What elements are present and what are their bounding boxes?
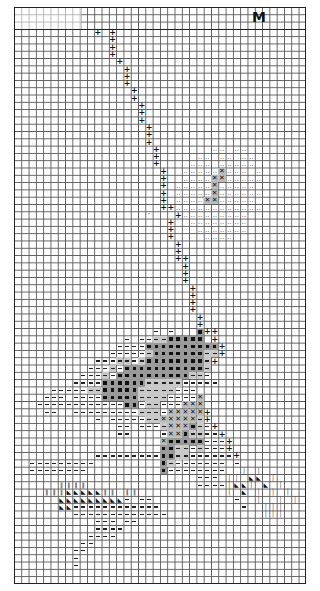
dash-symbol: [211, 467, 218, 474]
dark-square-symbol: [197, 336, 204, 343]
light-dots-symbol: [182, 211, 189, 218]
dash-symbol: [109, 452, 116, 459]
stem-cross-symbol: [160, 204, 167, 211]
dash-symbol: [189, 379, 196, 386]
dash-symbol: [109, 372, 116, 379]
dash-symbol: [124, 423, 131, 430]
dash-symbol: [131, 416, 138, 423]
dark-square-symbol: [160, 343, 167, 350]
dash-symbol: [29, 467, 36, 474]
triangle-symbol: [87, 496, 94, 503]
dash-symbol: [58, 401, 65, 408]
dark-square-symbol: [138, 365, 145, 372]
gray-dash-symbol: [182, 452, 189, 459]
dash-symbol: [58, 460, 65, 467]
dash-symbol: [204, 482, 211, 489]
triangle-symbol: [87, 489, 94, 496]
dark-square-symbol: [167, 357, 174, 364]
gray-dash-symbol: [160, 423, 167, 430]
dark-square-symbol: [167, 350, 174, 357]
light-dots-symbol: [218, 197, 225, 204]
dark-square-symbol: [197, 328, 204, 335]
dash-symbol: [94, 518, 101, 525]
gray-dash-symbol: [167, 387, 174, 394]
chart-letter-label: M: [252, 10, 266, 24]
dash-symbol: [197, 467, 204, 474]
gray-dash-symbol: [138, 357, 145, 364]
triangle-symbol: [65, 503, 72, 510]
gray-dash-symbol: [197, 423, 204, 430]
dark-square-symbol: [153, 365, 160, 372]
single-bar-symbol: [226, 489, 233, 496]
gray-dash-symbol: [204, 357, 211, 364]
gray-dash-symbol: [138, 409, 145, 416]
single-bar-symbol: [240, 467, 247, 474]
stem-cross-symbol: [218, 430, 225, 437]
dash-symbol: [204, 372, 211, 379]
dash-symbol: [80, 372, 87, 379]
dark-square-symbol: [116, 379, 123, 386]
dash-symbol: [72, 460, 79, 467]
gray-dash-symbol: [197, 430, 204, 437]
dash-symbol: [87, 533, 94, 540]
dash-symbol: [72, 503, 79, 510]
gray-dash-symbol: [160, 336, 167, 343]
dash-symbol: [116, 430, 123, 437]
dark-square-symbol: [160, 445, 167, 452]
dash-symbol: [204, 460, 211, 467]
stem-cross-symbol: [153, 160, 160, 167]
dark-square-symbol: [182, 350, 189, 357]
dash-symbol: [175, 387, 182, 394]
stem-cross-symbol: [211, 336, 218, 343]
dash-symbol: [109, 518, 116, 525]
single-bar-symbol: [291, 496, 298, 503]
dash-symbol: [131, 409, 138, 416]
dash-symbol: [87, 503, 94, 510]
dash-symbol: [175, 394, 182, 401]
light-dots-symbol: [197, 168, 204, 175]
dark-square-symbol: [197, 438, 204, 445]
dash-symbol: [211, 438, 218, 445]
dash-symbol: [109, 401, 116, 408]
dash-symbol: [160, 401, 167, 408]
cross-box-symbol: [175, 430, 182, 437]
dark-square-symbol: [182, 365, 189, 372]
dash-symbol: [102, 365, 109, 372]
dash-symbol: [80, 409, 87, 416]
light-dots-symbol: [240, 168, 247, 175]
dash-symbol: [102, 525, 109, 532]
dash-symbol: [94, 511, 101, 518]
dash-symbol: [102, 503, 109, 510]
dash-symbol: [153, 328, 160, 335]
stem-cross-symbol: [175, 211, 182, 218]
dash-symbol: [80, 467, 87, 474]
triangle-symbol: [72, 489, 79, 496]
dash-symbol: [131, 452, 138, 459]
cross-box-symbol: [211, 197, 218, 204]
dash-symbol: [65, 467, 72, 474]
dark-square-symbol: [124, 387, 131, 394]
light-dots-symbol: [189, 219, 196, 226]
dark-square-symbol: [102, 379, 109, 386]
gray-dash-symbol: [145, 379, 152, 386]
dash-symbol: [204, 452, 211, 459]
gray-dash-symbol: [167, 460, 174, 467]
dash-symbol: [94, 357, 101, 364]
triangle-symbol: [240, 489, 247, 496]
light-dots-symbol: [197, 226, 204, 233]
dash-symbol: [109, 511, 116, 518]
dash-symbol: [182, 460, 189, 467]
gray-dash-symbol: [153, 394, 160, 401]
light-dots-symbol: [248, 204, 255, 211]
light-dots-symbol: [218, 233, 225, 240]
double-bar-symbol: [131, 489, 138, 496]
dash-symbol: [204, 423, 211, 430]
stem-cross-symbol: [167, 204, 174, 211]
gray-dash-symbol: [153, 401, 160, 408]
dash-symbol: [116, 423, 123, 430]
dash-symbol: [124, 343, 131, 350]
dash-symbol: [94, 409, 101, 416]
dash-symbol: [102, 357, 109, 364]
stem-cross-symbol: [218, 350, 225, 357]
dash-symbol: [204, 445, 211, 452]
